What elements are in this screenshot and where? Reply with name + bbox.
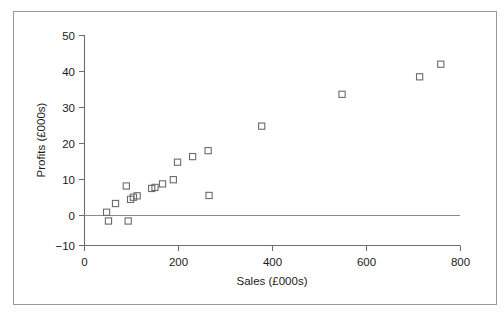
y-axis-ticks: [79, 36, 85, 246]
data-point-group: [103, 61, 443, 224]
data-point: [125, 218, 131, 224]
y-axis-title: Profits (£000s): [35, 102, 47, 177]
x-axis-title: Sales (£000s): [237, 275, 308, 287]
x-tick-label-400: 400: [263, 256, 282, 268]
data-point: [174, 159, 180, 165]
y-tick-label-40: 40: [62, 66, 75, 78]
x-tick-label-600: 600: [357, 256, 376, 268]
data-point: [170, 177, 176, 183]
y-tick-label-0: 0: [69, 210, 75, 222]
x-tick-label-800: 800: [451, 256, 470, 268]
x-tick-label-0: 0: [81, 256, 87, 268]
x-tick-labels: 0 200 400 600 800: [81, 256, 470, 268]
y-tick-labels: 50 40 30 20 10 0 −10: [55, 30, 75, 252]
data-point: [190, 154, 196, 160]
y-tick-label-30: 30: [62, 102, 75, 114]
data-point: [103, 209, 109, 215]
figure-container: 50 40 30 20 10 0 −10 0 200 400 600 800 S…: [0, 0, 503, 316]
data-point: [123, 183, 129, 189]
data-point: [112, 200, 118, 206]
x-tick-label-200: 200: [169, 256, 188, 268]
data-point: [105, 218, 111, 224]
x-axis-ticks: [85, 246, 461, 252]
data-point: [438, 61, 444, 67]
data-point: [159, 181, 165, 187]
data-point: [417, 74, 423, 80]
y-tick-label-50: 50: [62, 30, 75, 42]
y-tick-label-minus10: −10: [55, 240, 75, 252]
y-tick-label-20: 20: [62, 138, 75, 150]
data-point: [339, 91, 345, 97]
y-tick-label-10: 10: [62, 174, 75, 186]
data-point: [259, 123, 265, 129]
scatter-plot: 50 40 30 20 10 0 −10 0 200 400 600 800 S…: [0, 0, 503, 316]
data-point: [206, 192, 212, 198]
data-point: [205, 148, 211, 154]
